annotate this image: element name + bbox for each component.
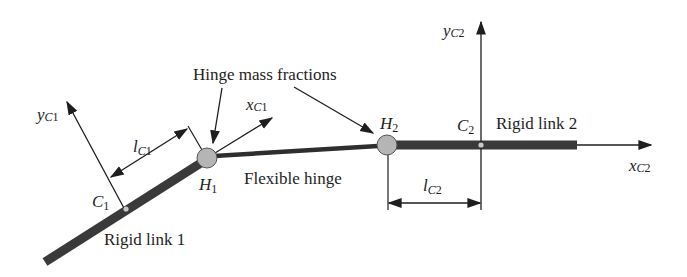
center-of-mass-c1	[123, 206, 128, 211]
flexible-hinge	[214, 146, 378, 156]
symbol-h1: H1	[198, 175, 217, 196]
symbol-c1: C1	[92, 192, 109, 213]
symbol-l-c1: lC1	[133, 137, 152, 158]
label-flexible-hinge: Flexible hinge	[244, 169, 342, 188]
symbol-c2: C2	[457, 116, 474, 137]
label-rigid-link-1: Rigid link 1	[104, 230, 185, 249]
pointer-to-h1	[213, 88, 222, 143]
two-link-flexible-hinge-diagram: Hinge mass fractions Flexible hinge Rigi…	[0, 0, 687, 277]
hinge-mass-h2	[377, 135, 397, 155]
symbol-y-c1: yC1	[35, 105, 59, 124]
symbol-h2: H2	[379, 114, 398, 135]
label-rigid-link-2: Rigid link 2	[496, 114, 577, 133]
l-c1-ext-line	[188, 126, 202, 150]
center-of-mass-c2	[478, 142, 483, 147]
hinge-mass-h1	[197, 148, 217, 168]
symbol-l-c2: lC2	[423, 176, 442, 197]
label-hinge-mass-fractions: Hinge mass fractions	[193, 65, 337, 84]
symbol-x-c2: xC2	[628, 156, 651, 175]
x-c1-axis	[215, 118, 272, 153]
pointer-to-h2	[294, 87, 373, 133]
symbol-y-c2: yC2	[441, 21, 465, 40]
symbol-x-c1: xC1	[245, 95, 268, 114]
